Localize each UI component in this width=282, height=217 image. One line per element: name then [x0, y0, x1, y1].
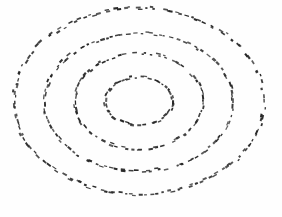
mark-layer [0, 0, 282, 217]
figure-root [0, 0, 282, 217]
